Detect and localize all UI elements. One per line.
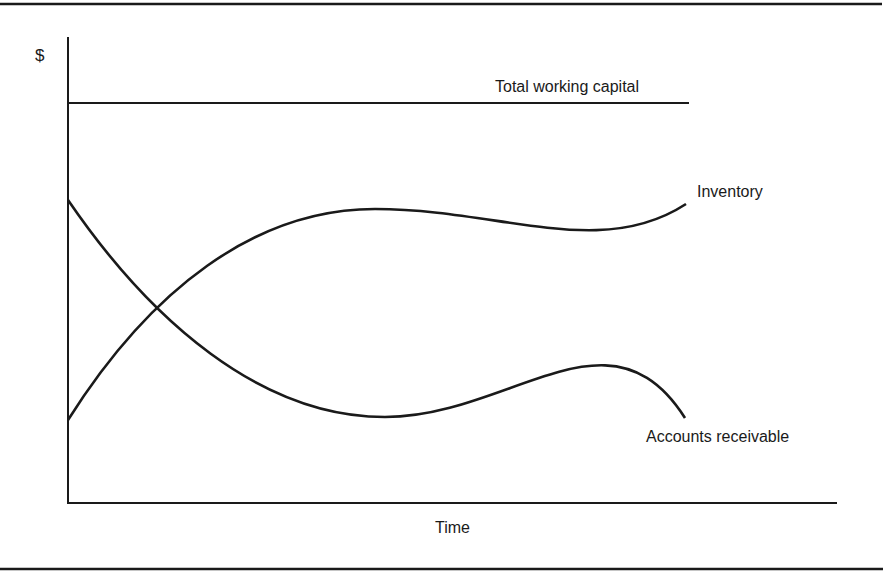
x-axis-label: Time — [435, 519, 470, 537]
total-working-capital-label: Total working capital — [495, 78, 639, 96]
accounts-receivable-label: Accounts receivable — [646, 428, 789, 446]
y-axis-label: $ — [35, 47, 44, 65]
accounts-receivable-curve — [68, 200, 685, 418]
chart-canvas — [0, 0, 883, 581]
inventory-label: Inventory — [697, 183, 763, 201]
